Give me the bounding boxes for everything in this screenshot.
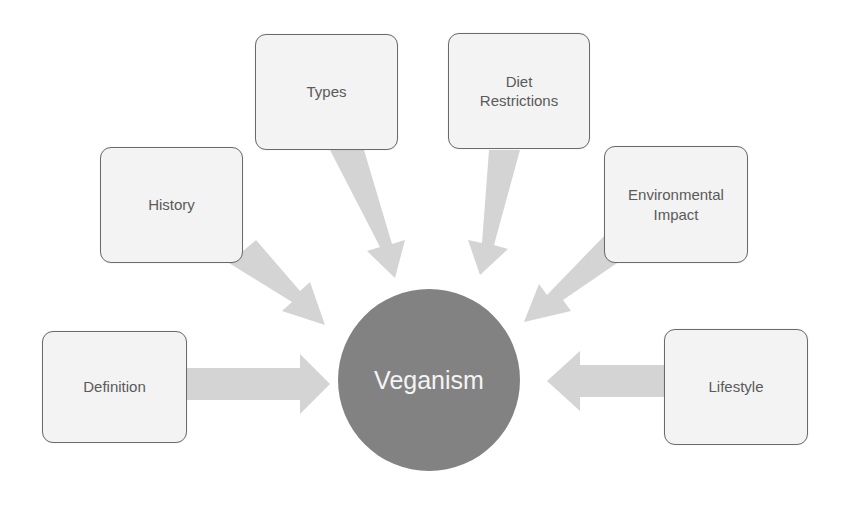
node-types: Types: [255, 34, 398, 150]
node-environmental-impact: Environmental Impact: [604, 146, 748, 263]
arrow-lifestyle: [547, 351, 664, 411]
arrow-diet-restrictions: [468, 150, 520, 275]
node-lifestyle: Lifestyle: [664, 329, 808, 445]
node-label: Lifestyle: [702, 377, 769, 397]
node-label: Environmental Impact: [610, 185, 742, 224]
node-diet-restrictions: Diet Restrictions: [448, 33, 590, 149]
arrow-history: [229, 240, 325, 325]
node-label: Diet Restrictions: [463, 72, 575, 111]
veganism-radial-diagram: Veganism Definition History Types Diet R…: [0, 0, 850, 513]
arrow-definition: [187, 354, 330, 414]
center-node-veganism: Veganism: [338, 289, 520, 471]
node-label: Definition: [77, 377, 152, 397]
node-history: History: [100, 147, 243, 263]
node-label: History: [142, 195, 201, 215]
node-label: Types: [300, 82, 352, 102]
arrow-types: [330, 150, 405, 278]
node-definition: Definition: [42, 331, 187, 443]
center-node-label: Veganism: [374, 366, 484, 395]
